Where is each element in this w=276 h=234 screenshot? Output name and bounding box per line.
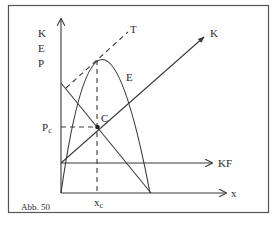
- label-kf: KF: [218, 157, 232, 169]
- y-label-e: E: [38, 42, 45, 54]
- total-cost-line: [61, 37, 204, 163]
- label-c: C: [101, 112, 108, 124]
- label-k: K: [210, 27, 218, 39]
- revenue-curve: [61, 60, 150, 194]
- label-x: x: [231, 187, 237, 199]
- y-label-k: K: [38, 27, 46, 39]
- label-pc: Pc: [42, 121, 52, 135]
- figure: K E P T K E KF x C Pc xc Abb. 50: [0, 0, 276, 234]
- label-t: T: [130, 23, 137, 35]
- figure-caption: Abb. 50: [21, 202, 50, 212]
- point-c-marker: [95, 125, 100, 130]
- price-line: [61, 83, 151, 193]
- y-label-p: P: [38, 57, 44, 69]
- figure-frame: [9, 6, 269, 213]
- label-e: E: [126, 71, 133, 83]
- label-xc: xc: [94, 196, 104, 210]
